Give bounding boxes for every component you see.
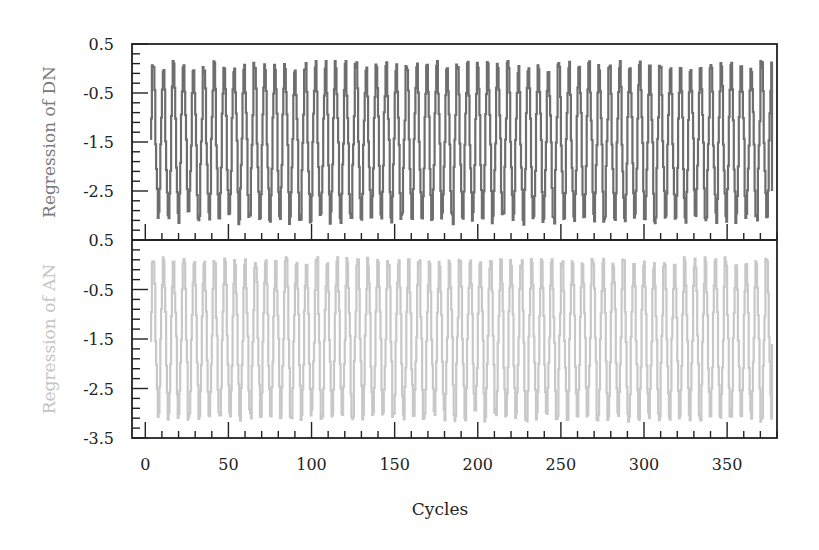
bottom-y-axis-ticks — [132, 240, 148, 438]
y-tick-label: 0.5 — [89, 35, 114, 54]
x-tick-label: 50 — [218, 455, 238, 474]
x-tick-labels: 050100150200250300350 — [140, 455, 742, 474]
y-tick-label: -0.5 — [83, 281, 114, 300]
x-tick-label: 250 — [546, 455, 577, 474]
series-path — [150, 257, 772, 421]
y-tick-label: -2.5 — [83, 380, 114, 399]
y-tick-label: -2.5 — [83, 182, 114, 201]
x-tick-label: 350 — [712, 455, 743, 474]
x-tick-label: 300 — [629, 455, 660, 474]
x-tick-label: 200 — [462, 455, 493, 474]
top-y-axis-ticks — [132, 44, 148, 240]
bottom-y-tick-labels: 0.5-0.5-1.5-2.5-3.5 — [83, 231, 114, 448]
top-panel-dn: 0.5-0.5-1.5-2.5 Regression of DN — [39, 35, 777, 240]
top-y-tick-labels: 0.5-0.5-1.5-2.5 — [83, 35, 114, 201]
chart-canvas: 0.5-0.5-1.5-2.5 Regression of DN 0.5-0.5… — [0, 0, 819, 550]
dn-series-line — [150, 61, 772, 225]
y-tick-label: -3.5 — [83, 429, 114, 448]
x-tick-label: 150 — [379, 455, 410, 474]
series-path — [150, 61, 772, 225]
stacked-line-chart: 0.5-0.5-1.5-2.5 Regression of DN 0.5-0.5… — [0, 0, 819, 550]
y-axis-title-dn: Regression of DN — [39, 66, 59, 218]
y-tick-label: 0.5 — [89, 231, 114, 250]
y-axis-title-an: Regression of AN — [39, 264, 59, 415]
an-series-line — [150, 257, 772, 421]
y-tick-label: -1.5 — [83, 133, 114, 152]
top-x-axis-ticks — [145, 224, 777, 240]
x-tick-label: 100 — [296, 455, 327, 474]
bottom-panel-an: 0.5-0.5-1.5-2.5-3.5 Regression of AN — [39, 231, 777, 448]
y-tick-label: -1.5 — [83, 330, 114, 349]
y-tick-label: -0.5 — [83, 84, 114, 103]
x-axis-title: Cycles — [412, 499, 468, 519]
x-tick-label: 0 — [140, 455, 150, 474]
bottom-x-axis-ticks — [145, 422, 777, 438]
